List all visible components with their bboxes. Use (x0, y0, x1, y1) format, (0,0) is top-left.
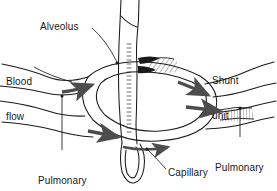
flow-arrows (62, 82, 220, 150)
inflow-upper-arrow (62, 85, 92, 92)
label-blood-flow: Blood flow (6, 53, 32, 145)
shunt-region (140, 52, 186, 80)
label-shunt-unit-line1: Shunt (212, 75, 239, 87)
label-blood-flow-line1: Blood (6, 76, 32, 88)
label-shunt-unit-line2: unit (212, 110, 239, 122)
label-capillary: Capillary (168, 167, 208, 179)
alveolus-duct (119, 0, 145, 183)
label-pulmonary-venule: Pulmonary venule (215, 139, 264, 191)
label-pulmonary-arteriole-line1: Pulmonary (38, 175, 87, 187)
label-alveolus: Alveolus (40, 21, 79, 33)
label-shunt-unit: Shunt unit (212, 52, 239, 144)
label-pulmonary-venule-line1: Pulmonary (215, 162, 264, 174)
alveolar-wall-hatching (127, 44, 131, 132)
leader-lines (34, 28, 242, 169)
leader-capillary (148, 150, 166, 169)
capillary-bottom-arrow (123, 147, 168, 150)
leader-blood-flow (34, 67, 72, 82)
label-pulmonary-arteriole: Pulmonary arteriole (38, 152, 87, 191)
figure-canvas: Alveolus Blood flow Shunt unit Pulmonary… (0, 0, 277, 191)
outflow-upper-arrow (178, 82, 208, 95)
capillary-loop (83, 62, 217, 141)
label-blood-flow-line2: flow (6, 111, 32, 123)
leader-alveolus (92, 28, 117, 62)
